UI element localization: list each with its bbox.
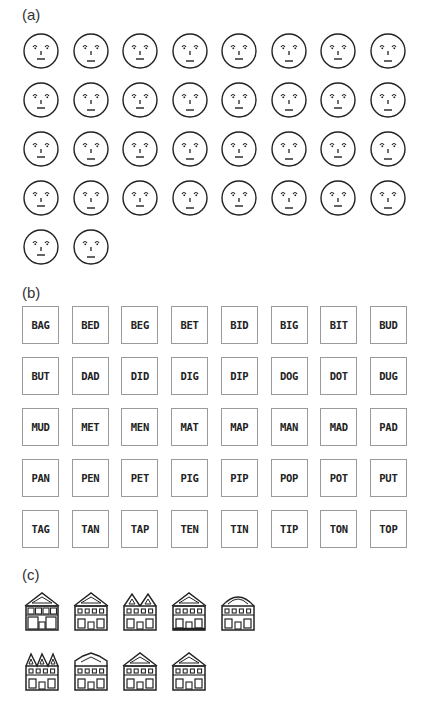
word-card: TAP (121, 510, 158, 548)
face-icon (72, 179, 110, 217)
face-icon (121, 32, 159, 70)
face-icon (22, 130, 60, 168)
face-icon (220, 32, 258, 70)
house-icon (169, 650, 209, 692)
word-card: BAG (22, 306, 59, 344)
face-icon (319, 81, 357, 119)
face-icon (121, 179, 159, 217)
face-icon (171, 130, 209, 168)
word-card: DUG (370, 357, 407, 395)
face-icon (369, 179, 407, 217)
face-icon (220, 81, 258, 119)
face-icon (22, 32, 60, 70)
word-card: TAG (22, 510, 59, 548)
word-card: PEN (72, 459, 109, 497)
face-icon (72, 32, 110, 70)
word-card: MAT (171, 408, 208, 446)
word-card: TIP (271, 510, 308, 548)
face-icon (72, 81, 110, 119)
house-icon (120, 590, 160, 632)
word-card: TAN (72, 510, 109, 548)
word-card: DIP (221, 357, 258, 395)
word-card: BUT (22, 357, 59, 395)
word-card: PAD (370, 408, 407, 446)
face-icon (171, 81, 209, 119)
face-icon (121, 130, 159, 168)
face-icon (220, 179, 258, 217)
panel-a-label: (a) (22, 6, 40, 23)
word-card: MAD (320, 408, 357, 446)
word-card: POT (320, 459, 357, 497)
face-icon (171, 32, 209, 70)
word-card: PIP (221, 459, 258, 497)
face-icon (319, 130, 357, 168)
word-card: PUT (370, 459, 407, 497)
face-icon (72, 228, 110, 266)
face-icon (22, 81, 60, 119)
face-icon (22, 228, 60, 266)
word-card: DOG (271, 357, 308, 395)
face-icon (121, 81, 159, 119)
word-card: DIG (171, 357, 208, 395)
word-card: BED (72, 306, 109, 344)
word-card: BID (221, 306, 258, 344)
word-card: MUD (22, 408, 59, 446)
face-icon (72, 130, 110, 168)
word-card: DAD (72, 357, 109, 395)
face-icon (270, 130, 308, 168)
face-icon (369, 81, 407, 119)
word-card: DOT (320, 357, 357, 395)
word-card: DID (121, 357, 158, 395)
word-card: PET (121, 459, 158, 497)
house-icon (169, 590, 209, 632)
word-card: BIT (320, 306, 357, 344)
house-icon (218, 590, 258, 632)
word-card: BET (171, 306, 208, 344)
word-card: TEN (171, 510, 208, 548)
word-card: MEN (121, 408, 158, 446)
house-icon (71, 650, 111, 692)
face-icon (319, 32, 357, 70)
face-icon (171, 179, 209, 217)
word-card: TON (320, 510, 357, 548)
word-card: PAN (22, 459, 59, 497)
panel-c-label: (c) (22, 566, 40, 583)
word-card: BUD (370, 306, 407, 344)
face-icon (22, 179, 60, 217)
face-icon (270, 32, 308, 70)
word-card: TOP (370, 510, 407, 548)
face-icon (270, 81, 308, 119)
house-icon (120, 650, 160, 692)
panel-b-label: (b) (22, 284, 40, 301)
word-card: POP (271, 459, 308, 497)
face-icon (319, 179, 357, 217)
word-card: BIG (271, 306, 308, 344)
word-card: MAP (221, 408, 258, 446)
house-icon (22, 650, 62, 692)
word-card: PIG (171, 459, 208, 497)
word-card: MET (72, 408, 109, 446)
house-icon (22, 590, 62, 632)
word-card: TIN (221, 510, 258, 548)
face-icon (369, 32, 407, 70)
face-icon (220, 130, 258, 168)
face-icon (369, 130, 407, 168)
word-card: MAN (271, 408, 308, 446)
house-icon (71, 590, 111, 632)
word-card: BEG (121, 306, 158, 344)
face-icon (270, 179, 308, 217)
